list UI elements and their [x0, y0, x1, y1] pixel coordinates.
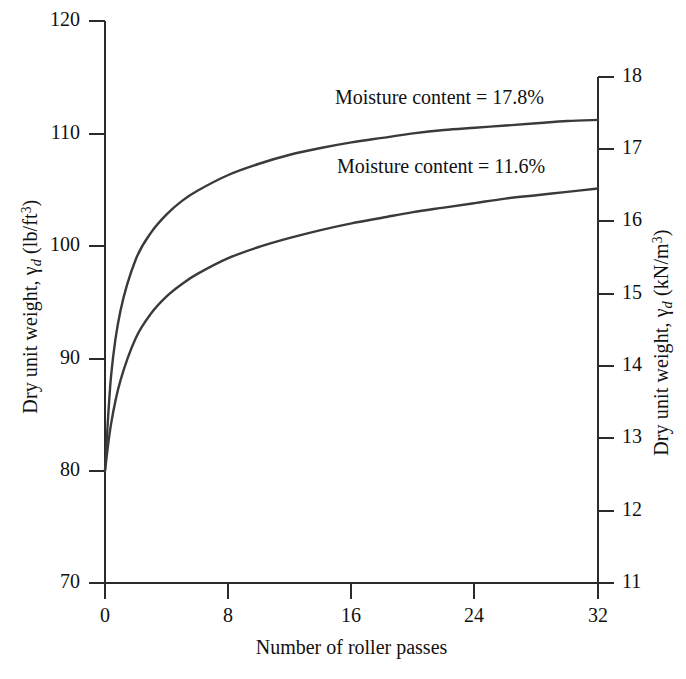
gamma-subscript-right: d: [659, 301, 675, 308]
y2-axis-unit-open: (kN/m: [650, 243, 672, 301]
left-tick-marks: [89, 21, 105, 583]
y-axis-title: Dry unit weight, γd (lb/ft3): [19, 157, 44, 457]
annotation-moisture-17-8: Moisture content = 17.8%: [335, 86, 544, 109]
gamma-subscript: d: [28, 259, 44, 266]
y-axis-title-text: Dry unit weight,: [19, 275, 41, 413]
x-tick-label-32: 32: [568, 604, 628, 627]
y2-tick-label-17: 17: [622, 136, 686, 159]
curve-moisture-11-6: [105, 188, 598, 470]
x-tick-label-0: 0: [75, 604, 135, 627]
gamma-symbol-right: γ: [650, 308, 672, 317]
right-tick-marks: [598, 77, 614, 583]
y-tick-label-80: 80: [10, 458, 80, 481]
y-tick-label-110: 110: [10, 121, 80, 144]
chart-figure: 120 110 100 90 80 70 18 17 16 15 14 13 1…: [0, 0, 686, 679]
x-tick-label-8: 8: [198, 604, 258, 627]
x-tick-label-16: 16: [321, 604, 381, 627]
y2-axis-unit-close: ): [650, 230, 672, 237]
y2-tick-label-18: 18: [622, 64, 686, 87]
gamma-symbol: γ: [19, 266, 41, 275]
y-axis-unit-open: (lb/ft: [19, 213, 41, 259]
x-tick-marks: [105, 583, 598, 599]
y2-axis-title: Dry unit weight, γd (kN/m3): [650, 193, 675, 493]
y-axis-unit-exponent: 3: [19, 206, 34, 213]
y-axis-unit-close: ): [19, 200, 41, 207]
annotation-moisture-11-6: Moisture content = 11.6%: [337, 155, 545, 178]
y-tick-label-70: 70: [10, 570, 80, 593]
y2-tick-label-12: 12: [622, 498, 686, 521]
y2-axis-title-text: Dry unit weight,: [650, 317, 672, 455]
y2-axis-unit-exponent: 3: [650, 236, 665, 243]
x-axis-title: Number of roller passes: [105, 636, 598, 659]
y2-tick-label-11: 11: [622, 570, 686, 593]
x-tick-label-24: 24: [444, 604, 504, 627]
y-tick-label-120: 120: [10, 8, 80, 31]
